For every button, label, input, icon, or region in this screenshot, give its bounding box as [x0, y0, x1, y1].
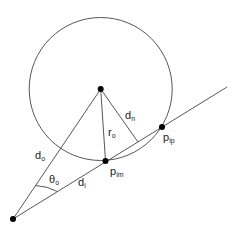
label-p-im: pim	[110, 165, 124, 178]
label-d-n: dn	[125, 109, 135, 122]
p-ip-point	[159, 124, 165, 130]
ray-line	[13, 87, 227, 219]
label-d-i: di	[78, 176, 86, 189]
d-o-line	[13, 89, 101, 219]
p-im-point	[103, 158, 109, 164]
label-r-o: ro	[108, 126, 116, 139]
label-theta-o: θo	[49, 173, 59, 186]
label-d-o: do	[35, 149, 45, 162]
geometry-diagram: do θo di ro dn pim pip	[0, 0, 238, 231]
r-o-line	[101, 89, 106, 161]
label-p-ip: pip	[163, 131, 175, 145]
theta-arc	[36, 186, 58, 192]
center-point	[98, 86, 104, 92]
origin-point	[10, 216, 16, 222]
